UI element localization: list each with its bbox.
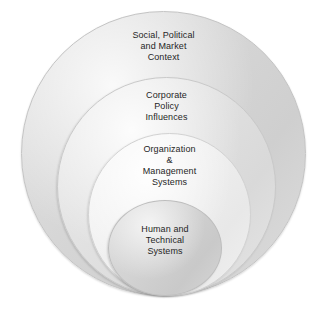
nested-circles-diagram: Social, Political and Market Context Cor…: [0, 0, 328, 312]
circle-human-technical-systems: Human and Technical Systems: [108, 200, 222, 296]
circle-label-social-political-market-context: Social, Political and Market Context: [22, 30, 305, 63]
circle-label-human-technical-systems: Human and Technical Systems: [109, 224, 221, 257]
